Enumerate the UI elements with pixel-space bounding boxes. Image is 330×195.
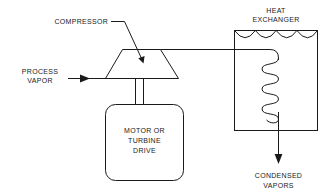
motor-drive-label-line2: TURBINE — [128, 137, 161, 144]
condensed-vapors-arrowhead — [275, 154, 283, 164]
compressor-label-group: COMPRESSOR — [54, 18, 144, 64]
compressor-trapezoid — [106, 50, 179, 79]
heat-exchanger-label-line2: EXCHANGER — [252, 16, 299, 23]
heat-exchanger-label-line1: HEAT — [266, 7, 286, 14]
motor-drive-label-line3: DRIVE — [133, 147, 156, 154]
motor-drive-group: MOTOR OR TURBINE DRIVE — [106, 105, 184, 181]
heat-exchanger-coil — [262, 58, 279, 123]
condensed-vapors-group: CONDENSED VAPORS — [255, 154, 302, 189]
diagram-canvas: COMPRESSOR PROCESS VAPOR MOTOR OR TURBIN… — [0, 0, 330, 195]
compressor-discharge-line — [161, 50, 279, 61]
process-flow-diagram: COMPRESSOR PROCESS VAPOR MOTOR OR TURBIN… — [0, 0, 330, 195]
discharge-line-group — [161, 50, 279, 61]
compressor-leader-arrowhead — [138, 56, 144, 64]
process-vapor-label-line2: VAPOR — [27, 77, 53, 84]
motor-drive-label-line1: MOTOR OR — [124, 127, 165, 134]
heat-exchanger-scallops — [235, 31, 318, 38]
compressor-label: COMPRESSOR — [54, 18, 108, 25]
drive-shaft-group — [136, 79, 144, 106]
process-vapor-inlet-group: PROCESS VAPOR — [22, 68, 106, 84]
condensed-vapors-label-line2: VAPORS — [263, 182, 293, 189]
condensed-vapors-label-line1: CONDENSED — [255, 172, 302, 179]
process-vapor-label-line1: PROCESS — [22, 68, 58, 75]
heat-exchanger-group: HEAT EXCHANGER — [235, 7, 318, 156]
compressor-body-group — [106, 50, 179, 79]
compressor-leader-line — [111, 22, 142, 60]
